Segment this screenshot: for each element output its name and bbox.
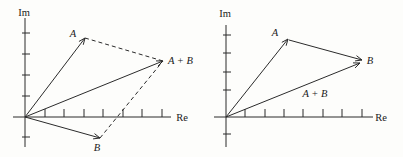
dashed-b-tip-to-sum (100, 61, 163, 138)
vector-b-line (25, 117, 100, 138)
vector-a-label: A (271, 27, 279, 38)
im-axis-label: Im (18, 7, 30, 18)
vector-a-label: A (69, 28, 77, 39)
re-axis-label: Re (176, 112, 188, 123)
re-axis-label: Re (375, 112, 387, 123)
head-to-tail-method-diagram: ImReABA + B (214, 8, 387, 147)
vector-addition-figure: ImReABA + BImReABA + B (0, 0, 403, 157)
vector-b-label: B (367, 55, 374, 66)
im-axis-label: Im (219, 8, 231, 19)
parallelogram-method-diagram: ImReABA + B (13, 7, 194, 153)
complex-plane-diagrams: ImReABA + BImReABA + B (0, 0, 403, 157)
vector-a-line (226, 39, 288, 117)
vector-a-plus-b-line (226, 63, 360, 117)
dashed-a-tip-to-sum (85, 38, 163, 61)
vector-b-label: B (94, 142, 101, 153)
vector-b-line (289, 40, 362, 60)
vector-a-plus-b-label: A + B (302, 88, 329, 99)
vector-a-plus-b-label: A + B (167, 55, 194, 66)
